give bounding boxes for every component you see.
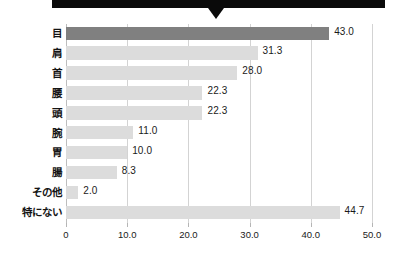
tick-mark: [372, 223, 373, 227]
bar-value-label: 2.0: [83, 185, 97, 196]
bar-row: 31.3: [66, 44, 372, 64]
bar-胃: [66, 146, 127, 159]
category-label-頭: 頭: [0, 104, 62, 124]
tick-mark: [311, 223, 312, 227]
bar-rows: 43.031.328.022.322.311.010.08.32.044.7: [66, 24, 372, 223]
bar-value-label: 22.3: [207, 105, 227, 116]
plot-area: 43.031.328.022.322.311.010.08.32.044.7: [66, 24, 372, 223]
bar-row: 22.3: [66, 104, 372, 124]
tick-mark: [250, 223, 251, 227]
horizontal-bar-chart: 目肩首腰頭腕胃腸その他特にない 43.031.328.022.322.311.0…: [0, 20, 399, 254]
bar-value-label: 22.3: [207, 85, 227, 96]
category-axis-labels: 目肩首腰頭腕胃腸その他特にない: [0, 24, 62, 223]
category-label-目: 目: [0, 24, 62, 44]
category-label-首: 首: [0, 64, 62, 84]
tick-label-50.0: 50.0: [363, 229, 382, 240]
bar-腸: [66, 166, 117, 179]
bar-value-label: 43.0: [334, 26, 354, 37]
bar-特にない: [66, 206, 340, 219]
tick-label-20.0: 20.0: [179, 229, 198, 240]
bar-row: 2.0: [66, 183, 372, 203]
bar-value-label: 8.3: [122, 165, 136, 176]
bar-row: 44.7: [66, 203, 372, 223]
category-label-腸: 腸: [0, 163, 62, 183]
category-label-腕: 腕: [0, 124, 62, 144]
bar-row: 10.0: [66, 143, 372, 163]
tick-label-0: 0: [63, 229, 68, 240]
bar-その他: [66, 186, 78, 199]
tick-label-30.0: 30.0: [240, 229, 259, 240]
tick-label-10.0: 10.0: [118, 229, 137, 240]
tick-mark: [188, 223, 189, 227]
category-label-胃: 胃: [0, 143, 62, 163]
tick-mark: [127, 223, 128, 227]
bar-肩: [66, 46, 258, 59]
bar-value-label: 11.0: [138, 125, 157, 136]
gridline-50.0: [372, 24, 373, 223]
category-label-腰: 腰: [0, 84, 62, 104]
top-banner: [52, 0, 385, 8]
category-label-その他: その他: [0, 183, 62, 203]
bar-目: [66, 27, 329, 40]
category-label-肩: 肩: [0, 44, 62, 64]
bar-value-label: 31.3: [263, 45, 283, 56]
category-label-特にない: 特にない: [0, 203, 62, 223]
bar-row: 11.0: [66, 124, 372, 144]
bar-腰: [66, 86, 202, 99]
down-triangle-marker-icon: [208, 8, 224, 19]
bar-頭: [66, 106, 202, 119]
bar-value-label: 44.7: [345, 205, 365, 216]
bar-row: 22.3: [66, 84, 372, 104]
tick-label-40.0: 40.0: [302, 229, 321, 240]
x-axis: 010.020.030.040.050.0: [66, 223, 372, 249]
bar-首: [66, 66, 237, 79]
bar-row: 43.0: [66, 24, 372, 44]
bar-value-label: 10.0: [132, 145, 152, 156]
bar-row: 28.0: [66, 64, 372, 84]
tick-mark: [66, 223, 67, 227]
bar-row: 8.3: [66, 163, 372, 183]
bar-腕: [66, 126, 133, 139]
bar-value-label: 28.0: [242, 65, 262, 76]
